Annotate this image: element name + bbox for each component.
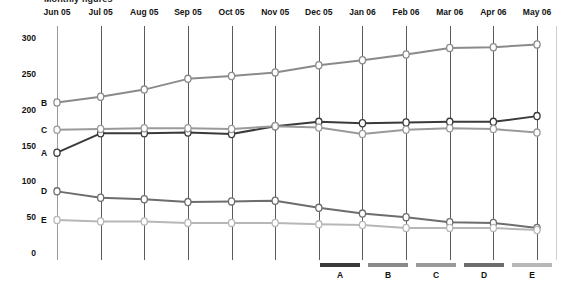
data-point-marker bbox=[272, 69, 278, 76]
data-point-marker bbox=[141, 125, 147, 132]
legend-item-b[interactable]: B bbox=[366, 259, 410, 280]
data-point-marker bbox=[359, 221, 365, 228]
data-point-marker bbox=[447, 44, 453, 51]
data-point-marker bbox=[54, 216, 60, 223]
legend-item-e[interactable]: E bbox=[510, 259, 554, 280]
data-point-marker bbox=[98, 194, 104, 201]
data-point-marker bbox=[359, 57, 365, 64]
legend-item-d[interactable]: D bbox=[462, 259, 506, 280]
legend-label: B bbox=[366, 270, 410, 280]
legend-item-a[interactable]: A bbox=[318, 259, 362, 280]
legend-label: C bbox=[414, 270, 458, 280]
legend-label: D bbox=[462, 270, 506, 280]
data-point-marker bbox=[54, 149, 60, 156]
data-point-marker bbox=[403, 51, 409, 58]
data-point-marker bbox=[359, 210, 365, 217]
data-point-marker bbox=[98, 218, 104, 225]
data-point-marker bbox=[447, 224, 453, 231]
data-point-marker bbox=[228, 219, 234, 226]
legend-swatch-icon bbox=[320, 263, 360, 267]
data-point-marker bbox=[228, 125, 234, 132]
data-point-marker bbox=[490, 224, 496, 231]
data-point-marker bbox=[54, 188, 60, 195]
data-point-marker bbox=[359, 120, 365, 127]
data-point-marker bbox=[185, 125, 191, 132]
data-point-marker bbox=[54, 126, 60, 133]
data-point-marker bbox=[141, 218, 147, 225]
data-point-marker bbox=[185, 219, 191, 226]
data-point-marker bbox=[403, 224, 409, 231]
data-point-marker bbox=[272, 197, 278, 204]
legend-label: E bbox=[510, 270, 554, 280]
data-point-marker bbox=[98, 93, 104, 100]
legend-item-c[interactable]: C bbox=[414, 259, 458, 280]
data-point-marker bbox=[54, 99, 60, 106]
legend-swatch-icon bbox=[416, 263, 456, 267]
data-point-marker bbox=[316, 124, 322, 131]
data-point-marker bbox=[316, 62, 322, 69]
data-point-marker bbox=[141, 196, 147, 203]
data-point-marker bbox=[185, 75, 191, 82]
data-point-marker bbox=[447, 125, 453, 132]
data-point-marker bbox=[534, 129, 540, 136]
data-point-marker bbox=[403, 126, 409, 133]
data-point-marker bbox=[141, 86, 147, 93]
data-point-marker bbox=[403, 214, 409, 221]
data-point-marker bbox=[228, 198, 234, 205]
data-point-marker bbox=[359, 130, 365, 137]
data-point-marker bbox=[490, 125, 496, 132]
legend-swatch-icon bbox=[512, 263, 552, 267]
data-point-marker bbox=[534, 41, 540, 48]
data-point-marker bbox=[272, 219, 278, 226]
data-point-marker bbox=[534, 113, 540, 120]
data-point-marker bbox=[316, 204, 322, 211]
data-point-marker bbox=[490, 118, 496, 125]
data-point-marker bbox=[185, 199, 191, 206]
data-point-marker bbox=[272, 123, 278, 130]
legend-swatch-icon bbox=[368, 263, 408, 267]
data-point-marker bbox=[534, 226, 540, 233]
series-line-a bbox=[57, 116, 537, 153]
legend-swatch-icon bbox=[464, 263, 504, 267]
data-point-marker bbox=[228, 72, 234, 79]
data-point-marker bbox=[403, 119, 409, 126]
legend-label: A bbox=[318, 270, 362, 280]
chart-legend: ABCDE bbox=[318, 259, 554, 283]
data-point-marker bbox=[490, 44, 496, 51]
data-point-marker bbox=[316, 221, 322, 228]
data-point-marker bbox=[98, 125, 104, 132]
plot-area bbox=[0, 0, 563, 286]
line-chart-panel: Monthly figures Jun 05Jul 05Aug 05Sep 05… bbox=[0, 0, 563, 286]
series-line-b bbox=[57, 44, 537, 102]
